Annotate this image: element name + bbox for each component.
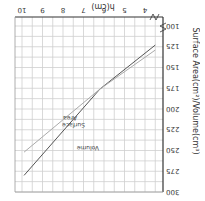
x-tick-label: 4 <box>142 6 147 14</box>
area-series-label: Area <box>63 115 77 122</box>
x-tick-label: 5 <box>122 6 126 14</box>
line-chart: 45678910100125150175200225250275300 h(cm… <box>0 0 205 201</box>
x-tick-label: 10 <box>18 6 27 14</box>
grid-lines <box>15 17 163 192</box>
x-tick-label: 9 <box>40 6 44 14</box>
chart-stage: 45678910100125150175200225250275300 h(cm… <box>0 0 205 201</box>
y-tick-label: 100 <box>166 22 179 30</box>
x-axis-label: h(cm) <box>91 2 115 11</box>
y-tick-label: 275 <box>166 167 179 175</box>
y-tick-label: 175 <box>166 84 179 92</box>
y-tick-label: 300 <box>166 188 179 196</box>
y-tick-label: 125 <box>166 42 179 50</box>
volume-series-label: Volume <box>76 145 99 152</box>
y-tick-label: 150 <box>166 63 179 71</box>
x-tick-label: 7 <box>81 6 85 14</box>
surface-series-label: Surface <box>62 122 85 129</box>
y-tick-label: 200 <box>166 105 179 113</box>
y-tick-label: 250 <box>166 146 179 154</box>
x-tick-label: 8 <box>61 6 65 14</box>
y-tick-label: 225 <box>166 125 179 133</box>
y-axis-label: Surface Area(cm²)/Volume(cm³) <box>191 27 200 154</box>
